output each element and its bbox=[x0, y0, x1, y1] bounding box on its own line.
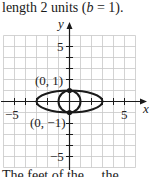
x-tick-label-5: 5 bbox=[121, 107, 128, 122]
point-label-0-neg1: (0, −1) bbox=[30, 115, 66, 130]
y-axis-label: y bbox=[56, 16, 64, 31]
y-axis-arrow-icon bbox=[67, 22, 73, 29]
axes bbox=[1, 22, 147, 170]
coordinate-graph: (0, 1) (0, −1) −5 5 5 −5 x y bbox=[0, 0, 159, 177]
y-tick-label-5: 5 bbox=[57, 39, 64, 54]
y-tick-label-neg5: −5 bbox=[50, 149, 64, 164]
x-tick-label-neg5: −5 bbox=[5, 107, 19, 122]
x-axis-label: x bbox=[142, 101, 149, 116]
point-label-0-1: (0, 1) bbox=[35, 73, 63, 88]
point-0-neg1 bbox=[67, 110, 72, 115]
caption-bottom: The feet of the ... the ... bbox=[2, 168, 133, 177]
point-0-1 bbox=[67, 88, 72, 93]
